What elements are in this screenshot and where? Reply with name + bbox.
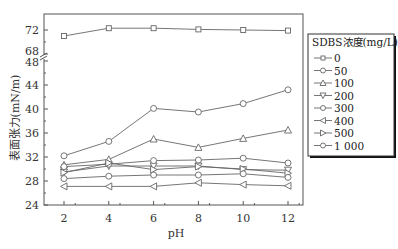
series-50 [61, 87, 291, 159]
marker-circle-icon [61, 153, 67, 159]
x-tick-label: 2 [61, 212, 68, 225]
x-tick-label: 4 [105, 212, 112, 225]
x-tick-label: 6 [150, 212, 157, 225]
marker-circle-icon [151, 172, 157, 178]
series-1000 [61, 171, 291, 182]
legend-label: 500 [334, 127, 354, 139]
x-tick-label: 12 [281, 212, 295, 225]
x-tick-label: 8 [195, 212, 202, 225]
x-axis-label: pH [168, 227, 185, 240]
y-tick-label: 24 [25, 199, 39, 212]
plot-border [44, 14, 303, 205]
y-axis-label: 表面张力(mN/m) [8, 75, 22, 162]
legend-label: 1 000 [334, 140, 364, 152]
marker-hexagon-icon [285, 160, 291, 166]
marker-circle-icon [61, 176, 67, 182]
y-tick-label: 72 [25, 24, 39, 37]
marker-circle-icon [106, 173, 112, 179]
marker-hexagon-icon [240, 155, 246, 161]
legend-label: 100 [334, 77, 354, 89]
marker-triangle-up-icon [150, 136, 157, 143]
legend-label: 300 [334, 102, 354, 114]
y-tick-label: 44 [25, 79, 39, 92]
y-tick-label: 36 [25, 127, 39, 140]
marker-triangle-left-icon [240, 181, 247, 188]
marker-square-icon [286, 28, 291, 33]
series-100 [61, 127, 292, 168]
marker-triangle-left-icon [195, 179, 202, 186]
series-0 [62, 26, 291, 39]
marker-square-icon [321, 56, 325, 60]
marker-square-icon [62, 34, 67, 39]
marker-circle-icon [195, 172, 201, 178]
x-tick-label: 10 [236, 212, 250, 225]
legend-label: 200 [334, 90, 354, 102]
legend-label: 0 [334, 52, 341, 64]
marker-hexagon-icon [321, 106, 326, 111]
series-400 [61, 179, 292, 190]
plot-frame [44, 14, 303, 205]
marker-hexagon-icon [61, 164, 67, 170]
marker-circle-icon [285, 87, 291, 93]
y-axis: 242832364044486872 [25, 24, 48, 212]
legend-label: 50 [334, 65, 347, 77]
marker-circle-icon [106, 138, 112, 144]
marker-circle-icon [151, 105, 157, 111]
surface-tension-chart: 242832364044486872 24681012 pH 表面张力(mN/m… [0, 0, 398, 249]
marker-triangle-left-icon [105, 183, 112, 190]
marker-hexagon-icon [151, 158, 157, 164]
y-tick-label: 28 [25, 175, 39, 188]
marker-circle-icon [240, 101, 246, 107]
marker-triangle-up-icon [285, 127, 292, 134]
marker-circle-icon [321, 143, 326, 148]
legend-title: SDBS浓度(mg/L) [312, 36, 398, 48]
marker-square-icon [241, 28, 246, 33]
marker-circle-icon [321, 68, 326, 73]
marker-square-icon [196, 27, 201, 32]
marker-hexagon-icon [195, 157, 201, 163]
marker-triangle-left-icon [285, 182, 292, 189]
marker-square-icon [106, 26, 111, 31]
legend-label: 400 [334, 115, 354, 127]
marker-circle-icon [285, 174, 291, 180]
y-tick-label: 32 [25, 151, 39, 164]
marker-square-icon [151, 26, 156, 31]
marker-circle-icon [195, 109, 201, 115]
data-series [61, 26, 292, 190]
legend: SDBS浓度(mg/L)0501002003004005001 000 [308, 34, 398, 158]
y-tick-label: 40 [25, 103, 39, 116]
marker-triangle-left-icon [150, 183, 157, 190]
marker-triangle-left-icon [61, 183, 68, 190]
marker-circle-icon [240, 171, 246, 177]
y-tick-label: 68 [25, 45, 39, 58]
